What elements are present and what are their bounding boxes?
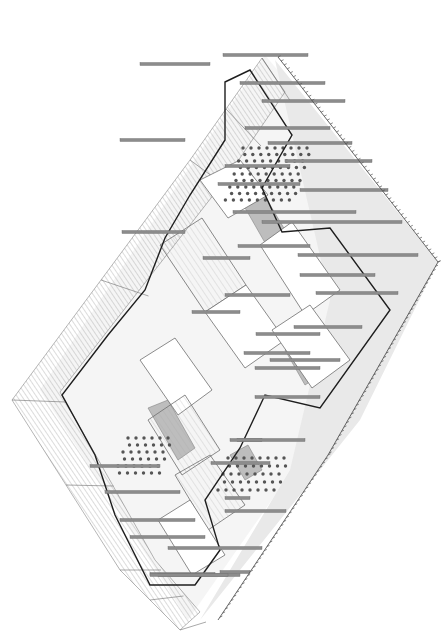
dot <box>229 472 232 475</box>
bar <box>270 359 340 362</box>
dot <box>259 153 262 156</box>
dot <box>268 464 271 467</box>
dot <box>267 153 270 156</box>
dot <box>137 450 140 453</box>
dot <box>238 192 241 195</box>
tick-mark <box>389 198 392 199</box>
bar <box>256 333 320 336</box>
dot <box>145 450 148 453</box>
dot <box>248 488 251 491</box>
tick-mark <box>309 95 312 96</box>
dot <box>265 172 268 175</box>
dot <box>286 192 289 195</box>
tick-mark <box>367 170 370 171</box>
dot <box>128 443 131 446</box>
dot <box>288 198 291 201</box>
tick-mark <box>416 233 419 234</box>
axonometric-drawing <box>0 0 441 638</box>
dot <box>274 179 277 182</box>
dot <box>256 198 259 201</box>
tick-mark <box>355 154 358 155</box>
dot <box>254 192 257 195</box>
dot <box>280 198 283 201</box>
dot <box>266 456 269 459</box>
dot <box>236 185 239 188</box>
dot <box>271 480 274 483</box>
tick-mark <box>284 64 287 65</box>
bar <box>150 574 228 577</box>
dot <box>253 159 256 162</box>
dot <box>258 179 261 182</box>
tick-mark <box>327 119 330 120</box>
dot <box>129 450 132 453</box>
bar <box>225 294 290 297</box>
dot <box>257 146 260 149</box>
dot <box>139 457 142 460</box>
dot <box>294 192 297 195</box>
tick-mark <box>413 229 416 230</box>
dot <box>168 443 171 446</box>
dot <box>144 443 147 446</box>
bar <box>220 571 250 574</box>
dot <box>261 159 264 162</box>
dot <box>241 146 244 149</box>
dot <box>284 185 287 188</box>
dot <box>232 488 235 491</box>
dot <box>303 166 306 169</box>
dot <box>158 471 161 474</box>
bar <box>240 82 325 85</box>
dot <box>290 179 293 182</box>
dot <box>123 457 126 460</box>
tick-mark <box>380 186 383 187</box>
bar <box>230 439 305 442</box>
dot <box>251 153 254 156</box>
tick-mark <box>423 241 426 242</box>
dot <box>295 166 298 169</box>
bar <box>298 254 418 257</box>
dot <box>250 456 253 459</box>
dot <box>250 179 253 182</box>
dot <box>166 436 169 439</box>
dot <box>273 172 276 175</box>
bar <box>225 165 290 168</box>
dot <box>126 471 129 474</box>
bar <box>130 536 205 539</box>
dot <box>298 179 301 182</box>
bar <box>90 465 160 468</box>
dot <box>142 471 145 474</box>
dot <box>244 464 247 467</box>
dot <box>136 443 139 446</box>
bar <box>168 547 262 550</box>
tick-mark <box>435 257 438 258</box>
tick-mark <box>407 221 410 222</box>
dot <box>150 471 153 474</box>
dot <box>134 471 137 474</box>
tick-mark <box>324 115 327 116</box>
dot <box>277 472 280 475</box>
bar <box>245 127 330 130</box>
dot <box>273 146 276 149</box>
dot <box>230 192 233 195</box>
dot <box>247 480 250 483</box>
tick-mark <box>352 150 355 151</box>
tick-mark <box>343 139 346 140</box>
dot <box>237 472 240 475</box>
dot <box>269 472 272 475</box>
tick-mark <box>426 245 429 246</box>
dot <box>297 172 300 175</box>
bar <box>300 189 388 192</box>
dot <box>126 436 129 439</box>
dot <box>249 172 252 175</box>
dot <box>299 153 302 156</box>
dot <box>239 480 242 483</box>
dot <box>257 172 260 175</box>
tick-mark <box>376 182 379 183</box>
bar <box>300 274 375 277</box>
dot <box>252 464 255 467</box>
tick-mark <box>330 123 333 124</box>
tick-mark <box>410 225 413 226</box>
dot <box>291 153 294 156</box>
dot <box>274 456 277 459</box>
dot <box>158 436 161 439</box>
dot <box>289 172 292 175</box>
